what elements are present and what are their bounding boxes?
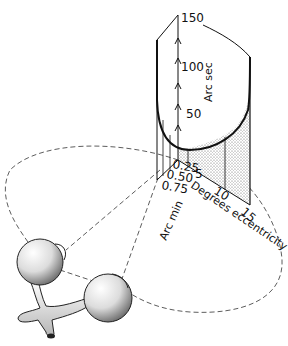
eccentricity-diagram: 150 100 50 Arc sec 5 10 15 Degrees eccen… [0,0,288,346]
depth-axis-label: Arc min [157,198,186,242]
cell-illustration [17,239,132,339]
vertical-axis [175,15,181,160]
tick-label-50: 50 [186,107,201,121]
tick-label-150: 150 [181,11,204,25]
vertical-axis-label: Arc sec [202,62,215,102]
tick-label-100: 100 [181,60,204,74]
